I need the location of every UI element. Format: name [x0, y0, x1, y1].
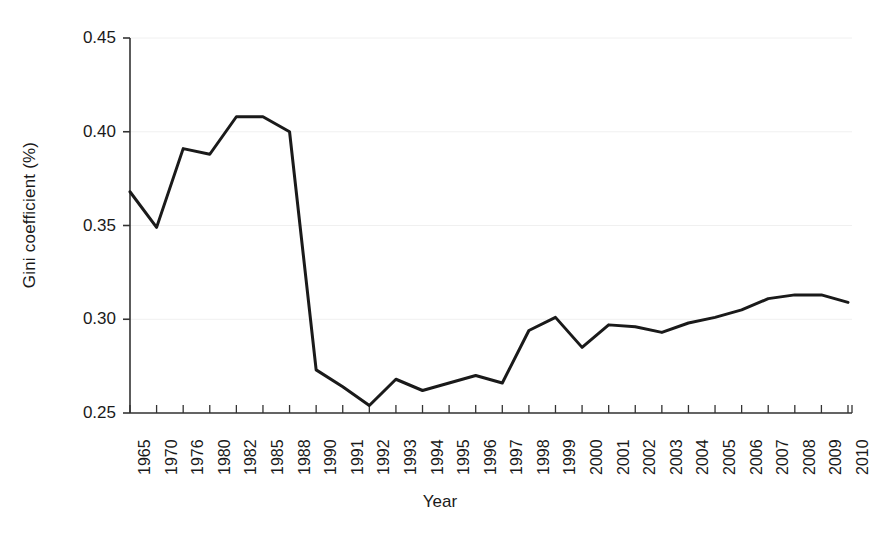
x-tick-label: 2003 — [668, 439, 686, 475]
x-tick-label: 1980 — [216, 439, 234, 475]
data-series-line — [130, 117, 848, 406]
x-tick-label: 1991 — [349, 439, 367, 475]
x-tick-label: 1995 — [455, 439, 473, 475]
y-tick-label: 0.30 — [54, 309, 116, 329]
x-tick-label: 2010 — [854, 439, 872, 475]
y-tick-label: 0.35 — [54, 216, 116, 236]
y-tick-label: 0.40 — [54, 122, 116, 142]
x-axis-ticks — [130, 405, 852, 413]
x-tick-label: 1982 — [242, 439, 260, 475]
x-tick-label: 1997 — [508, 439, 526, 475]
y-tick-label: 0.45 — [54, 28, 116, 48]
x-tick-label: 2005 — [721, 439, 739, 475]
x-tick-label: 1993 — [402, 439, 420, 475]
x-tick-label: 1985 — [269, 439, 287, 475]
x-tick-label: 2007 — [774, 439, 792, 475]
x-tick-label: 1976 — [189, 439, 207, 475]
x-tick-label: 2001 — [615, 439, 633, 475]
y-axis-ticks — [123, 38, 130, 413]
x-tick-label: 2002 — [641, 439, 659, 475]
series-gini-coefficient — [130, 117, 848, 406]
y-tick-label: 0.25 — [54, 403, 116, 423]
x-tick-label: 1970 — [163, 439, 181, 475]
x-tick-label: 1990 — [322, 439, 340, 475]
x-tick-label: 2004 — [694, 439, 712, 475]
x-tick-label: 2006 — [748, 439, 766, 475]
x-tick-label: 1996 — [482, 439, 500, 475]
x-tick-label: 1998 — [535, 439, 553, 475]
x-tick-label: 1965 — [136, 439, 154, 475]
gridlines — [130, 38, 852, 413]
x-tick-label: 2000 — [588, 439, 606, 475]
x-tick-label: 1992 — [375, 439, 393, 475]
x-tick-label: 2008 — [801, 439, 819, 475]
x-tick-label: 1999 — [561, 439, 579, 475]
x-tick-label: 1988 — [296, 439, 314, 475]
x-tick-label: 1994 — [429, 439, 447, 475]
x-axis-label: Year — [0, 492, 880, 512]
x-tick-label: 2009 — [827, 439, 845, 475]
gini-coefficient-line-chart: Gini coefficient (%) 0.250.300.350.400.4… — [0, 0, 880, 543]
